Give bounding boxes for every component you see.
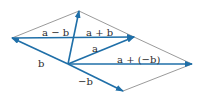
- guide-diff-to-negb: [123, 64, 192, 91]
- label-a-plus-neg-b: a + (−b): [117, 55, 160, 65]
- label-b: b: [38, 59, 44, 69]
- label-a-plus-b: a + b: [86, 28, 113, 38]
- vectors: [12, 11, 192, 91]
- vector-diagram: [0, 0, 201, 97]
- label-a-minus-b: a − b: [42, 28, 69, 38]
- vector-a-minus-b: [12, 37, 134, 38]
- vector-neg-b: [68, 64, 123, 91]
- label-a: a: [92, 44, 98, 54]
- label-neg-b: −b: [78, 77, 93, 87]
